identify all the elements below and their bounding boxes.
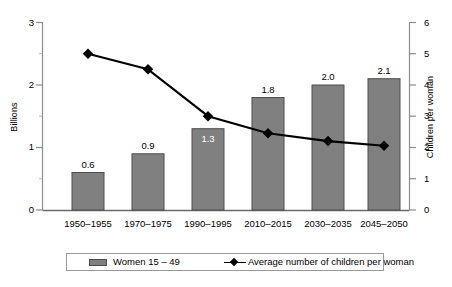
legend-label-women-15-49: Women 15 – 49	[113, 257, 180, 267]
bar-2010-2015	[252, 98, 284, 211]
bar-2030-2035	[312, 85, 344, 210]
bar-label-2030-2035: 2.0	[308, 71, 348, 82]
legend-item-average-children: Average number of children per woman	[224, 257, 414, 267]
x-axis-label-2045-2050: 2045–2050	[349, 218, 419, 229]
legend-bar-swatch-icon	[89, 259, 107, 266]
bar-label-1970-1975: 0.9	[128, 140, 168, 151]
chart-container: Billions Children per woman 3 2 1 0 6 5 …	[0, 0, 452, 287]
legend-label-average-children: Average number of children per woman	[248, 257, 414, 267]
bar-1970-1975	[132, 154, 164, 210]
bar-series-women-15-49	[72, 79, 400, 210]
legend-item-women-15-49: Women 15 – 49	[89, 257, 180, 267]
legend-diamond-marker-icon	[230, 258, 238, 266]
chart-legend: Women 15 – 49 Average number of children…	[66, 253, 384, 271]
legend-line-diamond-swatch-icon	[224, 258, 246, 267]
bar-label-2010-2015: 1.8	[248, 84, 288, 95]
bar-label-1990-1995: 1.3	[188, 133, 228, 144]
line-marker-1950-1955	[83, 48, 93, 58]
bar-1950-1955	[72, 173, 104, 211]
y-axis-left-ticks	[36, 23, 43, 211]
bar-label-1950-1955: 0.6	[68, 159, 108, 170]
y-axis-right-ticks	[410, 23, 417, 211]
bar-label-2045-2050: 2.1	[364, 65, 404, 76]
